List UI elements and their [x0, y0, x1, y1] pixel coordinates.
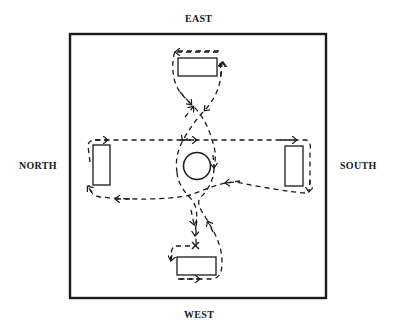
room-frame [70, 34, 326, 298]
center-circle [184, 153, 211, 180]
west-station [177, 257, 216, 275]
north-station [93, 145, 110, 185]
south-station [285, 146, 303, 186]
movement-diagram [0, 0, 398, 331]
label-south: SOUTH [340, 160, 377, 171]
label-north: NORTH [19, 160, 57, 171]
label-west: WEST [184, 309, 214, 320]
label-east: EAST [185, 13, 212, 24]
east-loop-path [176, 63, 220, 172]
east-station [178, 58, 217, 76]
movement-paths [88, 51, 310, 279]
